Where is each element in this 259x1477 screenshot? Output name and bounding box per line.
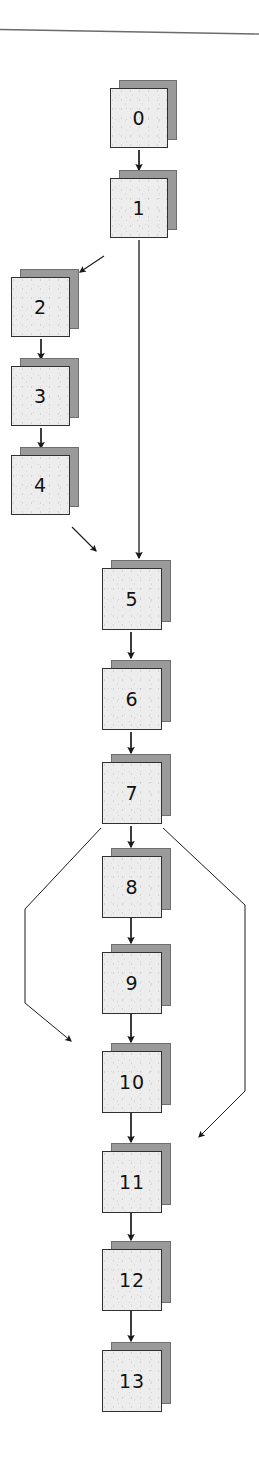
node-face: 7 [102,762,162,824]
node-face: 9 [102,952,162,1014]
flow-node-3[interactable]: 3 [11,366,70,426]
node-label: 3 [34,387,47,406]
flow-node-11[interactable]: 11 [102,1151,162,1213]
node-face: 4 [11,455,70,515]
flow-node-5[interactable]: 5 [102,568,162,630]
node-label: 0 [132,109,145,128]
node-face: 1 [110,178,168,238]
node-face: 8 [102,856,162,918]
node-label: 4 [34,476,47,495]
node-face: 3 [11,366,70,426]
flow-node-6[interactable]: 6 [102,668,162,730]
node-label: 1 [132,199,145,218]
scan-rule-artifact [0,30,259,35]
node-label: 2 [34,298,47,317]
node-face: 5 [102,568,162,630]
flow-node-1[interactable]: 1 [110,178,168,238]
node-label: 9 [125,974,138,993]
flow-node-8[interactable]: 8 [102,856,162,918]
flowchart-canvas: 0 1 2 3 4 5 6 [0,0,259,1477]
node-label: 8 [125,878,138,897]
flow-node-2[interactable]: 2 [11,277,70,337]
flow-node-10[interactable]: 10 [102,1051,162,1113]
node-label: 6 [125,690,138,709]
flow-node-4[interactable]: 4 [11,455,70,515]
flow-node-7[interactable]: 7 [102,762,162,824]
edge-7-to-11-bypass-right [163,828,245,1137]
node-face: 10 [102,1051,162,1113]
edge-1-to-2 [80,256,104,272]
node-face: 0 [110,88,168,148]
node-face: 12 [102,1249,162,1311]
flow-node-9[interactable]: 9 [102,952,162,1014]
flow-node-12[interactable]: 12 [102,1249,162,1311]
node-face: 6 [102,668,162,730]
node-label: 7 [125,784,138,803]
flow-node-13[interactable]: 13 [102,1350,162,1412]
edge-7-to-10-bypass-left [25,828,101,1041]
node-label: 11 [119,1173,145,1192]
node-face: 2 [11,277,70,337]
edge-4-to-5 [72,527,96,551]
node-label: 10 [119,1073,145,1092]
node-face: 11 [102,1151,162,1213]
node-face: 13 [102,1350,162,1412]
node-label: 12 [119,1271,145,1290]
node-label: 5 [125,590,138,609]
node-label: 13 [119,1372,145,1391]
flow-node-0[interactable]: 0 [110,88,168,148]
